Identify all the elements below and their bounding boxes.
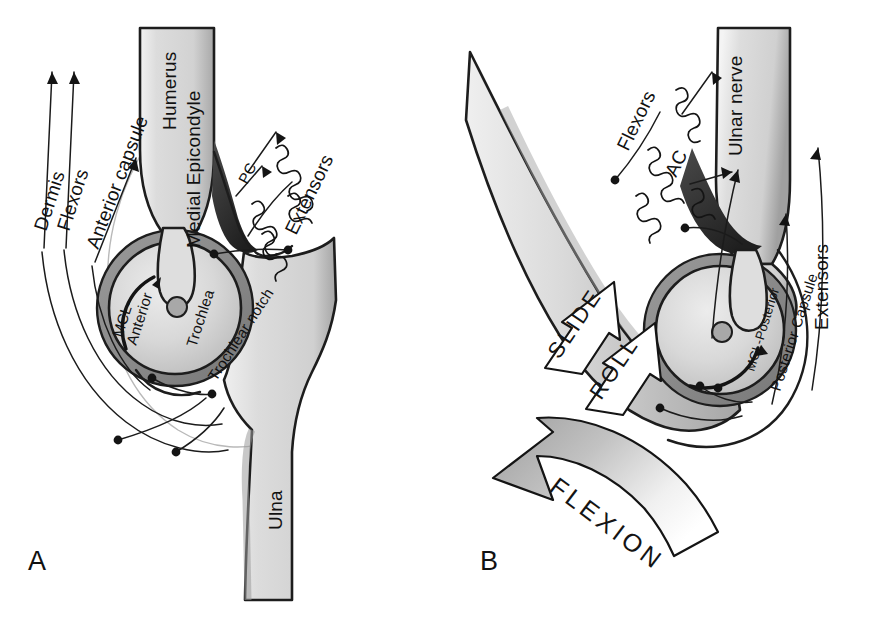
rotation-axis-b xyxy=(712,322,732,342)
panel-label-a: A xyxy=(28,546,46,576)
label-ulna-a: Ulna xyxy=(265,490,286,530)
label-humerus-a: Humerus xyxy=(159,52,180,130)
rotation-axis-a xyxy=(167,297,187,317)
elbow-anatomy-diagram: Dermis Flexors Anterior capsule Humerus … xyxy=(0,0,875,625)
figure-root: Dermis Flexors Anterior capsule Humerus … xyxy=(0,0,875,625)
label-medial-epicondyle-a: Medial Epicondyle xyxy=(183,90,204,248)
label-ulnar-nerve-b: Ulnar nerve xyxy=(725,56,746,156)
panel-label-b: B xyxy=(480,546,498,576)
